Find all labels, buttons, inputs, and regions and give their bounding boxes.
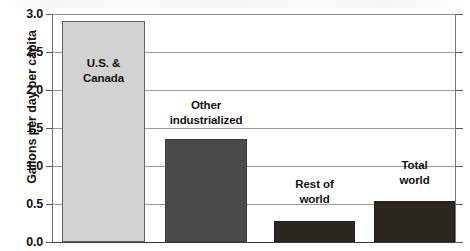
plot-area: 3.0 2.5 2.0 1.5 1.0 0.5 0.0 U.S. bbox=[52, 14, 456, 242]
bar-label-rest-of-world: Rest of world bbox=[274, 177, 355, 206]
bar-label-us-canada: U.S. & Canada bbox=[62, 56, 145, 85]
tick-right-1-0 bbox=[456, 166, 463, 167]
scan-artifact bbox=[0, 0, 470, 8]
tick-right-1-5 bbox=[456, 128, 463, 129]
gridline-0-0 bbox=[52, 242, 456, 243]
bar-label-total-world: Total world bbox=[374, 158, 455, 187]
chart-screenshot: Gallons per day per capita 3.0 2.5 2.0 1… bbox=[0, 0, 470, 251]
tick-right-0-5 bbox=[456, 204, 463, 205]
bar-other-industrialized[interactable] bbox=[165, 139, 247, 242]
bar-us-canada[interactable] bbox=[62, 21, 145, 242]
y-axis-title: Gallons per day per capita bbox=[25, 2, 39, 212]
tick-right-0-0 bbox=[456, 242, 463, 243]
y-tick-label-3-0: 3.0 bbox=[26, 7, 43, 21]
y-tick-label-0-5: 0.5 bbox=[26, 197, 43, 211]
y-tick-label-2-5: 2.5 bbox=[26, 45, 43, 59]
y-tick-label-1-5: 1.5 bbox=[26, 121, 43, 135]
tick-right-2-0 bbox=[456, 90, 463, 91]
bar-label-other-industrialized: Other industrialized bbox=[155, 98, 257, 127]
tick-right-3-0 bbox=[456, 14, 463, 15]
y-tick-label-2-0: 2.0 bbox=[26, 83, 43, 97]
tick-right-2-5 bbox=[456, 52, 463, 53]
y-axis-line-right bbox=[455, 14, 456, 243]
gridline-3-0 bbox=[52, 14, 456, 15]
y-tick-label-0-0: 0.0 bbox=[26, 235, 43, 249]
y-axis-line-left bbox=[52, 14, 53, 242]
bar-total-world[interactable] bbox=[374, 201, 455, 242]
tick-left-0-0 bbox=[46, 242, 52, 243]
bar-rest-of-world[interactable] bbox=[274, 221, 355, 242]
y-tick-label-1-0: 1.0 bbox=[26, 159, 43, 173]
